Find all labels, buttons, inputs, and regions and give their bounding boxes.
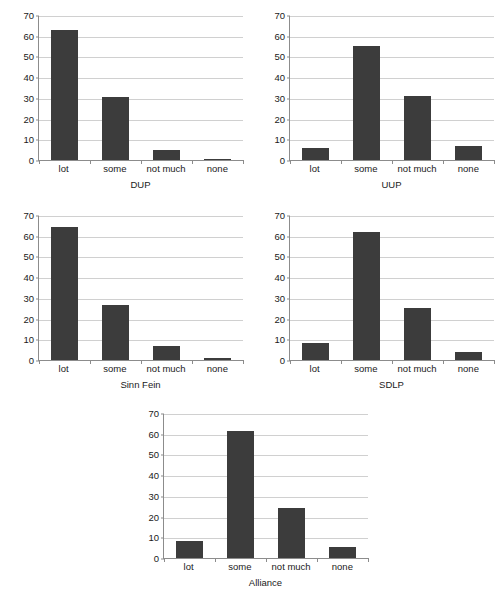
y-tick-label: 50 xyxy=(274,53,285,63)
x-axis-title: DUP xyxy=(38,180,243,190)
y-tick-label: 40 xyxy=(274,73,285,83)
bar-slot xyxy=(341,216,392,360)
x-tick-label: not much xyxy=(141,364,192,374)
bar xyxy=(153,150,180,160)
bar xyxy=(51,30,78,161)
x-axis-title: UUP xyxy=(289,180,494,190)
bar xyxy=(51,227,78,360)
x-axis-labels: lotsomenot muchnone xyxy=(289,164,494,174)
bar-slot xyxy=(215,414,266,558)
bar xyxy=(404,308,431,360)
y-tick-label: 50 xyxy=(23,53,34,63)
x-axis-title: SDLP xyxy=(289,380,494,390)
x-tick-label: none xyxy=(317,562,368,572)
bar xyxy=(153,346,180,361)
y-tick-label: 10 xyxy=(23,136,34,146)
x-tick-label: lot xyxy=(163,562,214,572)
x-tick-label: none xyxy=(192,364,243,374)
y-tick-label: 40 xyxy=(274,273,285,283)
y-tick-label: 10 xyxy=(274,136,285,146)
bar-slot xyxy=(39,16,90,160)
plot-area: 010203040506070 xyxy=(163,414,368,559)
y-tick-label: 70 xyxy=(274,11,285,21)
y-tick-label: 0 xyxy=(29,356,34,366)
x-tick-label: none xyxy=(443,164,494,174)
chart-panel-uup: 010203040506070lotsomenot muchnoneUUP xyxy=(259,4,502,200)
y-tick-label: 30 xyxy=(23,294,34,304)
y-tick-label: 30 xyxy=(274,94,285,104)
x-tick-label: some xyxy=(340,164,391,174)
x-tick-mark xyxy=(243,160,244,164)
x-tick-mark xyxy=(243,360,244,364)
y-tick-label: 0 xyxy=(280,356,285,366)
y-tick-label: 70 xyxy=(148,409,159,419)
bar xyxy=(176,541,203,558)
x-tick-label: not much xyxy=(392,164,443,174)
x-tick-label: lot xyxy=(289,164,340,174)
x-tick-mark xyxy=(494,360,495,364)
bar-slot xyxy=(192,216,243,360)
bar-slot xyxy=(266,414,317,558)
bar-slot xyxy=(290,16,341,160)
y-tick-label: 30 xyxy=(23,94,34,104)
bar-slot xyxy=(141,16,192,160)
bar xyxy=(329,547,356,558)
bar-series xyxy=(290,216,494,360)
x-tick-label: none xyxy=(192,164,243,174)
bar-slot xyxy=(317,414,368,558)
y-tick-label: 60 xyxy=(274,232,285,242)
x-tick-label: lot xyxy=(289,364,340,374)
y-tick-label: 20 xyxy=(274,315,285,325)
x-tick-label: some xyxy=(214,562,265,572)
bar xyxy=(302,343,329,360)
x-tick-label: not much xyxy=(266,562,317,572)
bar xyxy=(102,97,129,160)
y-tick-label: 40 xyxy=(23,273,34,283)
bar-slot xyxy=(164,414,215,558)
x-axis-title: Sinn Fein xyxy=(38,380,243,390)
bar xyxy=(455,146,482,161)
y-tick-label: 20 xyxy=(148,513,159,523)
x-axis-labels: lotsomenot muchnone xyxy=(163,562,368,572)
bar-slot xyxy=(392,16,443,160)
bar xyxy=(102,305,129,360)
x-tick-mark xyxy=(494,160,495,164)
x-axis-title: Alliance xyxy=(163,578,368,588)
bar-slot xyxy=(443,16,494,160)
y-tick-label: 30 xyxy=(148,492,159,502)
bar-slot xyxy=(90,16,141,160)
y-tick-label: 70 xyxy=(274,211,285,221)
bar-slot xyxy=(443,216,494,360)
x-tick-label: none xyxy=(443,364,494,374)
x-axis-labels: lotsomenot muchnone xyxy=(38,164,243,174)
bar xyxy=(353,232,380,360)
y-tick-label: 60 xyxy=(23,232,34,242)
plot-area: 010203040506070 xyxy=(38,16,243,161)
y-tick-label: 50 xyxy=(274,253,285,263)
y-tick-label: 20 xyxy=(23,315,34,325)
bar-slot xyxy=(90,216,141,360)
bar-series xyxy=(39,216,243,360)
y-tick-label: 0 xyxy=(154,554,159,564)
y-tick-label: 60 xyxy=(274,32,285,42)
x-tick-label: lot xyxy=(38,364,89,374)
y-tick-label: 20 xyxy=(23,115,34,125)
plot-area: 010203040506070 xyxy=(38,216,243,361)
plot-area: 010203040506070 xyxy=(289,216,494,361)
bar xyxy=(353,46,380,160)
bar xyxy=(227,431,254,558)
x-axis-labels: lotsomenot muchnone xyxy=(289,364,494,374)
bar-series xyxy=(164,414,368,558)
y-tick-label: 0 xyxy=(280,156,285,166)
x-tick-label: lot xyxy=(38,164,89,174)
y-tick-label: 40 xyxy=(23,73,34,83)
y-tick-label: 10 xyxy=(148,534,159,544)
bar-slot xyxy=(290,216,341,360)
bar-series xyxy=(39,16,243,160)
x-tick-label: not much xyxy=(392,364,443,374)
y-tick-label: 30 xyxy=(274,294,285,304)
bar xyxy=(278,508,305,558)
bar-chart-panel-grid: 010203040506070lotsomenot muchnoneDUP010… xyxy=(0,0,502,598)
bar-series xyxy=(290,16,494,160)
chart-panel-sinn-fein: 010203040506070lotsomenot muchnoneSinn F… xyxy=(8,204,251,400)
